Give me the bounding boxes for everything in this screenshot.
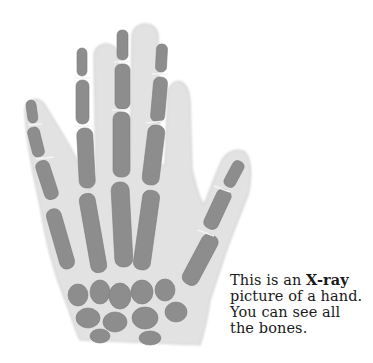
caption-term-xray: X-ray: [306, 271, 349, 288]
caption-line-2: picture of a hand.: [230, 288, 373, 304]
caption-line-4: the bones.: [230, 320, 373, 336]
caption-text: This is an: [230, 272, 306, 288]
book-page: This is an X-ray picture of a hand. You …: [0, 0, 373, 363]
caption: This is an X-ray picture of a hand. You …: [230, 272, 373, 336]
caption-line-1: This is an X-ray: [230, 272, 373, 288]
caption-line-3: You can see all: [230, 304, 373, 320]
